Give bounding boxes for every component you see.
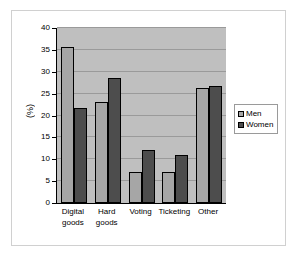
legend: MenWomen <box>234 104 278 134</box>
bar <box>74 108 87 203</box>
bar <box>142 150 155 203</box>
x-tick-label-line: Digital <box>62 207 84 216</box>
x-tick-label-line: goods <box>62 217 84 228</box>
legend-item: Men <box>238 108 273 119</box>
chart-figure: 0510152025303540 (%) DigitalgoodsHardgoo… <box>0 0 298 258</box>
y-tick-label: 20 <box>41 112 50 120</box>
y-tick-label: 10 <box>41 155 50 163</box>
y-tick-label: 0 <box>46 199 50 207</box>
bar <box>196 88 209 203</box>
x-tick-label: Hardgoods <box>96 206 118 228</box>
y-tick-label: 25 <box>41 90 50 98</box>
y-tick-label: 40 <box>41 24 50 32</box>
bar <box>108 78 121 203</box>
x-tick-label-line: Ticketing <box>158 207 190 216</box>
legend-swatch-icon <box>238 111 244 117</box>
x-tick-label: Voting <box>129 206 151 217</box>
bar <box>209 86 222 203</box>
x-tick-label: Ticketing <box>158 206 190 217</box>
legend-item: Women <box>238 119 273 130</box>
bar <box>95 102 108 203</box>
x-tick-label: Digitalgoods <box>62 206 84 228</box>
plot-area <box>56 28 226 204</box>
y-axis-title: (%) <box>25 96 37 126</box>
gridline <box>57 49 226 50</box>
x-axis: DigitalgoodsHardgoodsVotingTicketingOthe… <box>56 206 226 240</box>
bar <box>61 47 74 203</box>
x-tick-label-line: Hard <box>98 207 115 216</box>
y-tick-label: 30 <box>41 68 50 76</box>
bar <box>175 155 188 203</box>
x-tick-label-line: Voting <box>129 207 151 216</box>
x-tick-label-line: goods <box>96 217 118 228</box>
x-tick-label: Other <box>198 206 218 217</box>
y-tick-label: 35 <box>41 46 50 54</box>
x-tick-label-line: Other <box>198 207 218 216</box>
bar <box>162 172 175 204</box>
gridline <box>57 71 226 72</box>
legend-label: Women <box>246 121 273 129</box>
gridline <box>57 27 226 28</box>
y-tick-label: 5 <box>46 177 50 185</box>
legend-swatch-icon <box>238 122 244 128</box>
legend-label: Men <box>246 110 262 118</box>
bar <box>129 172 142 203</box>
y-tick-label: 15 <box>41 133 50 141</box>
